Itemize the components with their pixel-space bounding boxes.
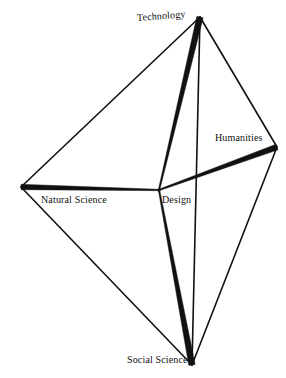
diagram-canvas: Technology Humanities Social Science Nat… xyxy=(0,0,286,378)
node-label-humanities: Humanities xyxy=(215,132,263,143)
center-node-group xyxy=(157,188,160,191)
spoke-design-natural-science xyxy=(21,184,159,190)
center-node-dot xyxy=(157,188,160,191)
node-label-social-science: Social Science xyxy=(127,354,188,365)
outline-edges-group xyxy=(21,17,277,365)
diagram-svg xyxy=(0,0,286,378)
node-label-design: Design xyxy=(162,194,191,205)
outline-edge-natural-science-to-technology xyxy=(21,17,200,187)
spoke-design-humanities xyxy=(159,144,278,190)
spoke-design-social-science xyxy=(158,190,195,366)
node-label-natural-science: Natural Science xyxy=(41,194,107,205)
outline-edge-technology-to-humanities xyxy=(200,17,277,147)
outline-edge-social-science-to-natural-science xyxy=(21,187,192,365)
outline-edge-humanities-to-social-science xyxy=(192,147,277,365)
spokes-group xyxy=(21,16,278,365)
outline-edge-technology-to-social-science xyxy=(192,17,200,365)
